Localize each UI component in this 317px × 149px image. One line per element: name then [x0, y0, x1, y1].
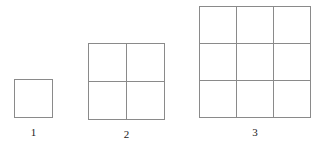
- grid-cell: [89, 44, 127, 82]
- grid-cell: [127, 44, 165, 82]
- figure-stage: 1 2 3: [0, 0, 317, 149]
- grid-cell: [274, 81, 311, 118]
- grid-3x3: [199, 6, 311, 118]
- grid-cell: [200, 81, 237, 118]
- grid-cell: [237, 7, 274, 44]
- grid-cell: [274, 7, 311, 44]
- grid-cell: [274, 44, 311, 81]
- grid-cell: [15, 80, 53, 118]
- grid-cell: [237, 81, 274, 118]
- grid-cell: [127, 82, 165, 120]
- figure-3: 3: [199, 6, 311, 138]
- grid-cell: [89, 82, 127, 120]
- grid-2x2: [88, 43, 165, 120]
- grid-cell: [237, 44, 274, 81]
- grid-1x1: [14, 79, 53, 118]
- grid-cell: [200, 7, 237, 44]
- figure-2: 2: [88, 43, 165, 140]
- figure-label-2: 2: [124, 129, 130, 140]
- figure-1: 1: [14, 79, 53, 138]
- figure-label-3: 3: [252, 127, 258, 138]
- grid-cell: [200, 44, 237, 81]
- figure-label-1: 1: [31, 127, 37, 138]
